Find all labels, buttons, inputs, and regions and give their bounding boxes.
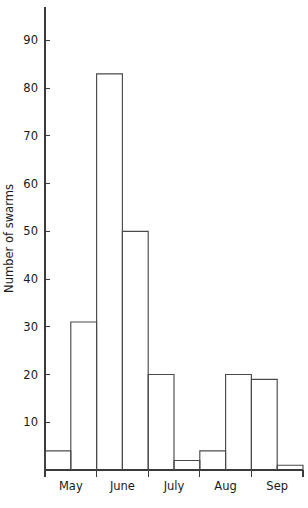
y-tick-label: 90: [23, 33, 38, 47]
bar: [277, 465, 303, 470]
y-tick-label: 10: [23, 415, 38, 429]
x-tick-label: July: [163, 479, 185, 493]
bar: [174, 460, 200, 470]
bar-series: [45, 74, 303, 470]
y-tick-label: 20: [23, 368, 38, 382]
y-axis: 102030405060708090: [23, 7, 50, 470]
y-tick-label: 50: [23, 224, 38, 238]
bar: [148, 375, 174, 470]
bar: [97, 74, 123, 470]
y-tick-label: 70: [23, 129, 38, 143]
bar: [251, 379, 277, 470]
y-tick-label: 80: [23, 81, 38, 95]
x-tick-label: June: [109, 479, 135, 493]
bar: [226, 375, 252, 470]
y-tick-label: 40: [23, 272, 38, 286]
y-axis-title: Number of swarms: [2, 184, 16, 293]
y-tick-label: 30: [23, 320, 38, 334]
y-tick-label: 60: [23, 177, 38, 191]
axis-labels: Number of swarms: [2, 184, 16, 293]
chart-container: 102030405060708090 MayJuneJulyAugSep Num…: [0, 0, 308, 508]
bar: [71, 322, 97, 470]
bar: [200, 451, 226, 470]
swarms-histogram: 102030405060708090 MayJuneJulyAugSep Num…: [0, 0, 308, 508]
bar: [45, 451, 71, 470]
x-axis: MayJuneJulyAugSep: [45, 470, 303, 493]
x-tick-label: Sep: [266, 479, 288, 493]
x-tick-label: Aug: [214, 479, 236, 493]
bar: [122, 231, 148, 470]
x-tick-label: May: [59, 479, 83, 493]
